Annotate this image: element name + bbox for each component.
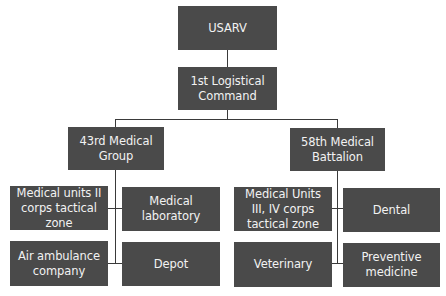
node-label: Medical Units III, IV corps tactical zon… <box>237 187 329 232</box>
node-dental: Dental <box>343 188 440 232</box>
connector-root-to-level1 <box>227 50 228 67</box>
connector-43rd-spine <box>115 170 116 264</box>
connector-bus-to-43rd <box>115 119 116 127</box>
connector-43rd-row1 <box>108 208 122 209</box>
node-medical-units-iii-iv-ctz: Medical Units III, IV corps tactical zon… <box>234 187 332 231</box>
node-label: Medical laboratory <box>125 194 217 224</box>
connector-branch-bus <box>115 119 338 120</box>
node-label: Veterinary <box>254 257 312 272</box>
node-label: Air ambulance company <box>13 249 105 279</box>
connector-43rd-row2 <box>108 263 122 264</box>
node-label: 43rd Medical Group <box>71 134 161 164</box>
node-label: Medical units II corps tactical zone <box>13 186 105 231</box>
node-label: Depot <box>154 257 188 272</box>
node-usarv: USARV <box>178 6 277 50</box>
node-medical-laboratory: Medical laboratory <box>122 187 220 231</box>
node-veterinary: Veterinary <box>234 242 332 287</box>
connector-58th-row2 <box>332 263 343 264</box>
node-label: 58th Medical Battalion <box>293 135 382 165</box>
connector-58th-spine <box>337 171 338 264</box>
node-label: USARV <box>208 21 247 36</box>
node-label: Dental <box>373 203 410 218</box>
node-air-ambulance-company: Air ambulance company <box>10 241 108 286</box>
node-58th-medical-battalion: 58th Medical Battalion <box>290 128 385 171</box>
node-preventive-medicine: Preventive medicine <box>343 243 440 287</box>
node-1st-logistical-command: 1st Logistical Command <box>178 67 277 110</box>
connector-58th-row1 <box>332 208 343 209</box>
node-label: Preventive medicine <box>346 250 437 280</box>
node-43rd-medical-group: 43rd Medical Group <box>68 127 164 170</box>
connector-level1-to-bus <box>227 110 228 119</box>
node-label: 1st Logistical Command <box>181 74 274 104</box>
node-medical-units-ii-ctz: Medical units II corps tactical zone <box>10 186 108 230</box>
node-depot: Depot <box>122 242 220 286</box>
connector-bus-to-58th <box>337 119 338 128</box>
